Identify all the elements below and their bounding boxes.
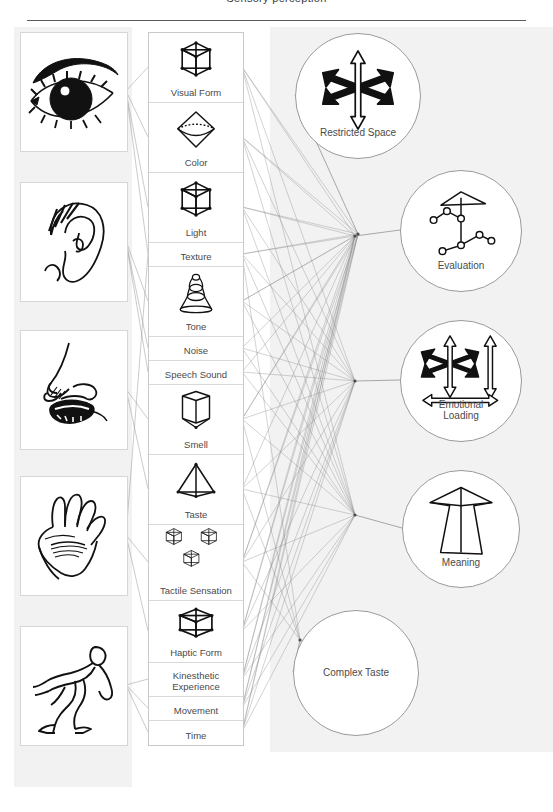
- modality-label: Light: [184, 225, 209, 239]
- diagram-root: Sensory perception Visual FormColorLight…: [0, 0, 553, 812]
- wire-cube-icon: [173, 179, 219, 219]
- modality-row-noise[interactable]: Noise: [149, 337, 243, 361]
- header-rule: [27, 20, 526, 21]
- sense-organ-card-ear[interactable]: [20, 182, 128, 302]
- modality-label: Time: [184, 728, 209, 742]
- modality-row-smell[interactable]: Smell: [149, 385, 243, 455]
- modality-row-color[interactable]: Color: [149, 103, 243, 173]
- eye-illustration: [21, 33, 127, 151]
- modality-label: Smell: [182, 437, 210, 451]
- concept-label: Restricted Space: [296, 127, 420, 139]
- modality-row-haptic-form[interactable]: Haptic Form: [149, 601, 243, 663]
- concept-label: Complex Taste: [294, 667, 418, 679]
- modality-row-tone[interactable]: Tone: [149, 267, 243, 337]
- big-arrow-icon: [419, 483, 503, 567]
- concept-circle-emotional-loading[interactable]: Emotional Loading: [400, 320, 522, 442]
- concept-label: Emotional Loading: [401, 399, 521, 422]
- modality-label: Taste: [183, 507, 210, 521]
- sense-organ-card-nose-mouth[interactable]: [20, 330, 128, 450]
- flat-cube-icon: [172, 606, 220, 641]
- modality-row-tactile-sensation[interactable]: Tactile Sensation: [149, 525, 243, 601]
- node-network-icon: [420, 183, 502, 267]
- concept-circle-evaluation[interactable]: Evaluation: [400, 170, 522, 292]
- modality-row-speech-sound[interactable]: Speech Sound: [149, 361, 243, 385]
- concept-circle-complex-taste[interactable]: Complex Taste: [293, 610, 419, 736]
- octahedron-icon: [173, 109, 219, 150]
- nose-mouth-illustration: [21, 331, 127, 449]
- concept-circle-meaning[interactable]: Meaning: [402, 470, 520, 588]
- page-title: Sensory perception: [0, 0, 553, 4]
- modality-label: Speech Sound: [163, 367, 229, 381]
- modality-row-visual-form[interactable]: Visual Form: [149, 33, 243, 103]
- modality-label: Noise: [182, 343, 210, 357]
- pyramid-icon: [175, 462, 217, 501]
- open-prism-icon: [175, 390, 217, 432]
- modality-column: Visual FormColorLightTextureToneNoiseSpe…: [148, 32, 244, 746]
- modality-label: Haptic Form: [168, 645, 224, 659]
- modality-label: Tactile Sensation: [158, 583, 234, 597]
- concept-label: Evaluation: [401, 260, 521, 272]
- modality-label: Texture: [178, 249, 213, 263]
- modality-label: Movement: [172, 703, 220, 717]
- modality-row-time[interactable]: Time: [149, 721, 243, 745]
- modality-row-taste[interactable]: Taste: [149, 455, 243, 525]
- modality-label: Kinesthetic Experience: [170, 668, 222, 693]
- ear-illustration: [21, 183, 127, 301]
- running-body-illustration: [21, 627, 127, 745]
- modality-row-kinesthetic-experience[interactable]: Kinesthetic Experience: [149, 663, 243, 697]
- sense-organ-card-body[interactable]: [20, 626, 128, 746]
- modality-label: Color: [183, 155, 210, 169]
- modality-row-texture[interactable]: Texture: [149, 243, 243, 267]
- modality-label: Visual Form: [169, 85, 224, 99]
- bell-icon: [176, 272, 216, 314]
- concept-label: Meaning: [403, 557, 519, 569]
- modality-label: Tone: [184, 319, 209, 333]
- sense-organ-card-eye[interactable]: [20, 32, 128, 152]
- six-arrow-star-icon: [315, 46, 401, 138]
- modality-row-movement[interactable]: Movement: [149, 697, 243, 721]
- concept-circle-restricted-space[interactable]: Restricted Space: [295, 33, 421, 159]
- three-cubes-icon: [161, 527, 231, 581]
- sense-organ-card-hand[interactable]: [20, 476, 128, 596]
- wire-cube-icon: [173, 39, 219, 79]
- modality-row-light[interactable]: Light: [149, 173, 243, 243]
- hand-palm-illustration: [21, 477, 127, 595]
